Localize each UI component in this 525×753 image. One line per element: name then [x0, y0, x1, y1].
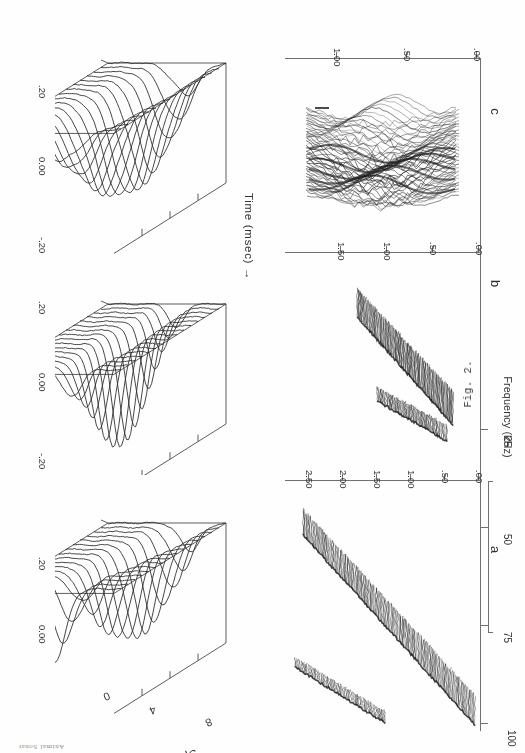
waterfall-wb-canvas — [55, 270, 260, 475]
frequency-tick-label: 25 — [502, 436, 513, 447]
spectrogram-panel-b — [285, 253, 481, 453]
time-tick-label: 2.50 — [304, 470, 315, 489]
time-tick-label: 1.50 — [372, 470, 383, 489]
frequency-tick — [480, 429, 488, 430]
panel-a-bracket-cap — [488, 481, 493, 482]
speed-tick-label: 0.00 — [37, 373, 48, 392]
speed-tick-label: 0.00 — [37, 157, 48, 176]
waterfall-panel-wa — [55, 29, 260, 259]
waterfall-column: .20 0.00 -.20 0.00 .20 -.20 0.00 .20 Spe… — [0, 0, 270, 753]
time-tick-label: 1.00 — [406, 470, 417, 489]
panel-label-a: a — [488, 546, 503, 553]
panel-label-c: c — [488, 108, 503, 115]
panel-a-bracket-cap — [488, 632, 493, 633]
frequency-tick-label: 75 — [502, 632, 513, 643]
time-tick-label: 1.00 — [332, 48, 343, 67]
time-tick-label: .00 — [474, 470, 485, 483]
waterfall-wa-canvas — [55, 29, 260, 259]
figure-page: Animal Sonar Frequency (kHz) 100 75 50 2… — [0, 0, 525, 753]
time-tick-label: 1.00 — [382, 242, 393, 261]
time-tick-label: .00 — [472, 48, 483, 61]
speed-tick-label: .20 — [37, 301, 48, 314]
scale-marker — [315, 107, 329, 109]
frequency-tick-label: 50 — [502, 534, 513, 545]
speed-axis-label: Speed (m/sec) — [116, 746, 200, 753]
spectrogram-b-canvas — [285, 253, 481, 453]
spectrogram-a-canvas — [285, 481, 481, 731]
time-tick-label: .00 — [474, 242, 485, 255]
time-tick-label: .50 — [440, 470, 451, 483]
panel-a-bracket — [488, 481, 489, 633]
speed-tick-label: .20 — [37, 85, 48, 98]
time-tick-label: 2.00 — [338, 470, 349, 489]
speed-tick-label: -.20 — [37, 453, 48, 469]
time-tick-label: .50 — [402, 48, 413, 61]
speed-tick-label: 8 — [204, 716, 214, 729]
speed-tick-label: -.20 — [37, 237, 48, 253]
frequency-tick — [480, 723, 488, 724]
frequency-tick — [480, 625, 488, 626]
spectrogram-panel-c — [285, 59, 481, 225]
rotated-figure-body: Frequency (kHz) 100 75 50 25 a — [0, 0, 525, 753]
frequency-tick — [480, 527, 488, 528]
time-tick-label: .50 — [428, 242, 439, 255]
panel-c-time-axis — [285, 58, 481, 59]
frequency-tick-label: 100 — [506, 730, 517, 747]
waterfall-panel-wc — [55, 489, 260, 717]
panel-label-b: b — [488, 280, 503, 287]
spectrogram-panel-a — [285, 481, 481, 731]
spectrogram-c-canvas — [285, 59, 481, 225]
figure-caption: Fig. 2. — [462, 360, 474, 408]
time-tick-label: 1.50 — [336, 242, 347, 261]
speed-tick-label: .20 — [37, 557, 48, 570]
spectrogram-column: Frequency (kHz) 100 75 50 25 a — [275, 0, 525, 753]
waterfall-panel-wb — [55, 270, 260, 475]
speed-tick-label: 0.00 — [37, 625, 48, 644]
waterfall-wc-canvas — [55, 489, 260, 717]
